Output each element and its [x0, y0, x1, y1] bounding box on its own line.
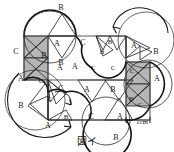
vertex-label: C [91, 65, 96, 72]
vertex-label: B [108, 39, 113, 46]
vertex-label: B [58, 4, 63, 12]
vertex-label: A [72, 63, 78, 71]
vertex-label: C [80, 39, 85, 47]
vertex-label: B [153, 48, 158, 56]
vertex-label: C [138, 102, 143, 109]
vertex-label: A [131, 42, 137, 50]
geometry-figure-svg [0, 0, 174, 152]
vertex-label: A [45, 122, 51, 130]
vertex-label: A [18, 75, 24, 83]
vertex-label: B [113, 134, 118, 142]
vertex-label: B [100, 49, 105, 56]
rotation-arrow-top-right [113, 8, 168, 33]
vertex-label: B [129, 96, 134, 103]
vertex-label: B [64, 114, 69, 121]
vertex-label: C [130, 68, 135, 75]
vertex-label: B [41, 52, 46, 60]
vertex-label: C [111, 65, 116, 72]
vertex-label: C [88, 113, 93, 121]
vertex-label: C [13, 48, 18, 56]
vertex-label: C [39, 78, 44, 85]
vertex-label: A [57, 64, 63, 72]
figure-caption: 図イ [77, 137, 97, 147]
figure-canvas: B A B C B A C A B B A B C A C C A B C C … [0, 0, 174, 152]
vertex-label: C [48, 96, 53, 103]
vertex-label: A [84, 86, 90, 94]
vertex-label: A [154, 75, 160, 83]
vertex-label: C [58, 85, 63, 93]
vertex-label: A [54, 40, 60, 48]
vertex-label: A [117, 113, 123, 121]
vertex-label: B [18, 102, 23, 110]
scale-label: 1cm [136, 119, 148, 126]
vertex-label: B [110, 86, 115, 94]
